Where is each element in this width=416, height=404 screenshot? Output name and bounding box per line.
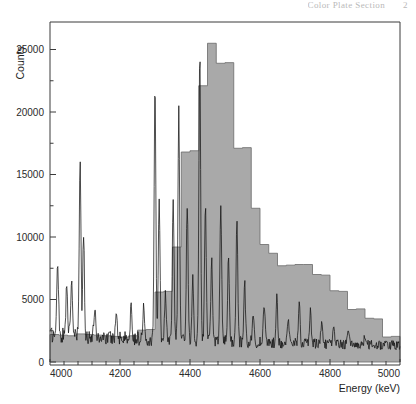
x-tick-label: 4400 bbox=[179, 368, 202, 379]
x-tick-label: 4600 bbox=[249, 368, 272, 379]
chart-svg: 0500010000150002000025000400042004400460… bbox=[0, 0, 416, 404]
histogram-layer bbox=[50, 43, 400, 362]
x-tick-label: 4200 bbox=[109, 368, 132, 379]
spectrum-chart: 0500010000150002000025000400042004400460… bbox=[0, 0, 416, 404]
x-tick-label: 4000 bbox=[50, 368, 73, 379]
y-tick-label: 15000 bbox=[16, 169, 44, 180]
x-axis-title: Energy (keV) bbox=[339, 382, 400, 394]
y-tick-label: 0 bbox=[38, 357, 44, 368]
y-tick-label: 10000 bbox=[16, 232, 44, 243]
x-tick-label: 5000 bbox=[378, 368, 401, 379]
y-axis-title: Counts bbox=[14, 46, 26, 79]
y-tick-label: 5000 bbox=[22, 294, 45, 305]
histogram-path bbox=[50, 43, 400, 362]
figure-page: Color Plate Section 2 050001000015000200… bbox=[0, 0, 416, 404]
x-tick-label: 4800 bbox=[319, 368, 342, 379]
y-tick-label: 20000 bbox=[16, 107, 44, 118]
